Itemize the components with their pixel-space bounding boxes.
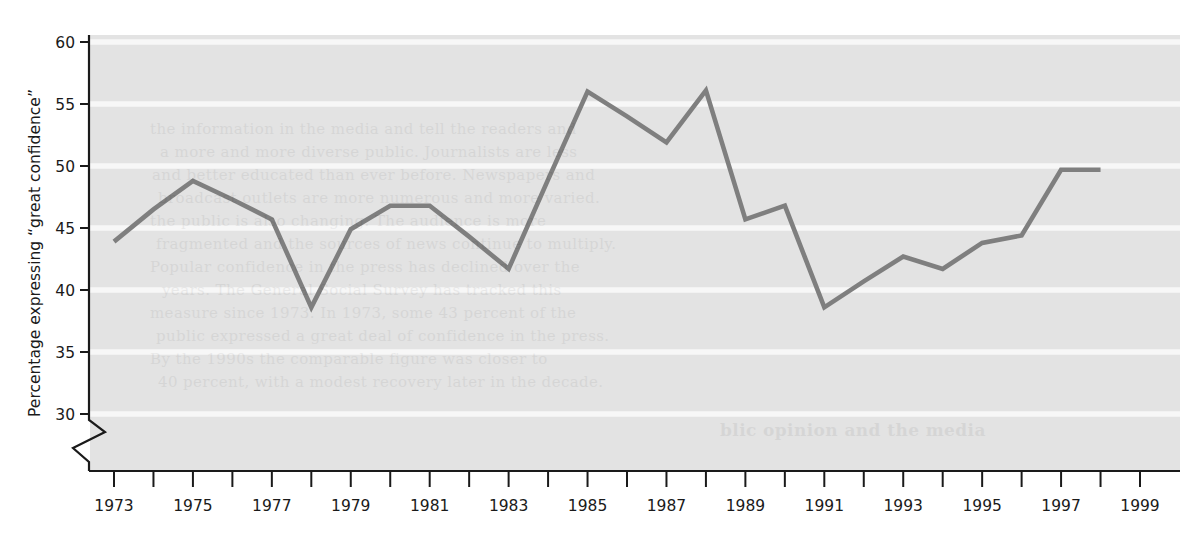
y-tick-label: 55 [55, 96, 75, 114]
x-axis-ticks: 1973197519771979198119831985198719891991… [94, 472, 1159, 515]
x-tick-label: 1973 [94, 497, 133, 515]
x-tick-label: 1999 [1120, 497, 1159, 515]
y-tick-label: 35 [55, 344, 75, 362]
x-tick-label: 1997 [1041, 497, 1080, 515]
x-tick-label: 1991 [805, 497, 844, 515]
y-tick-label: 50 [55, 158, 75, 176]
x-tick-label: 1979 [331, 497, 370, 515]
x-tick-label: 1989 [726, 497, 765, 515]
figure-container: the information in the media and tell th… [0, 0, 1194, 551]
y-tick-label: 60 [55, 34, 75, 52]
y-tick-label: 40 [55, 282, 75, 300]
line-chart: 30354045505560 1973197519771979198119831… [0, 0, 1194, 551]
x-tick-label: 1983 [489, 497, 528, 515]
y-tick-label: 30 [55, 406, 75, 424]
x-tick-label: 1987 [647, 497, 686, 515]
x-tick-label: 1995 [962, 497, 1001, 515]
x-tick-label: 1975 [173, 497, 212, 515]
x-tick-label: 1993 [884, 497, 923, 515]
x-tick-label: 1977 [252, 497, 291, 515]
plot-area-background [90, 35, 1180, 472]
y-axis-ticks: 30354045505560 [55, 34, 89, 424]
y-axis-title: Percentage expressing “great confidence” [26, 89, 44, 417]
x-tick-label: 1981 [410, 497, 449, 515]
y-tick-label: 45 [55, 220, 75, 238]
x-tick-label: 1985 [568, 497, 607, 515]
